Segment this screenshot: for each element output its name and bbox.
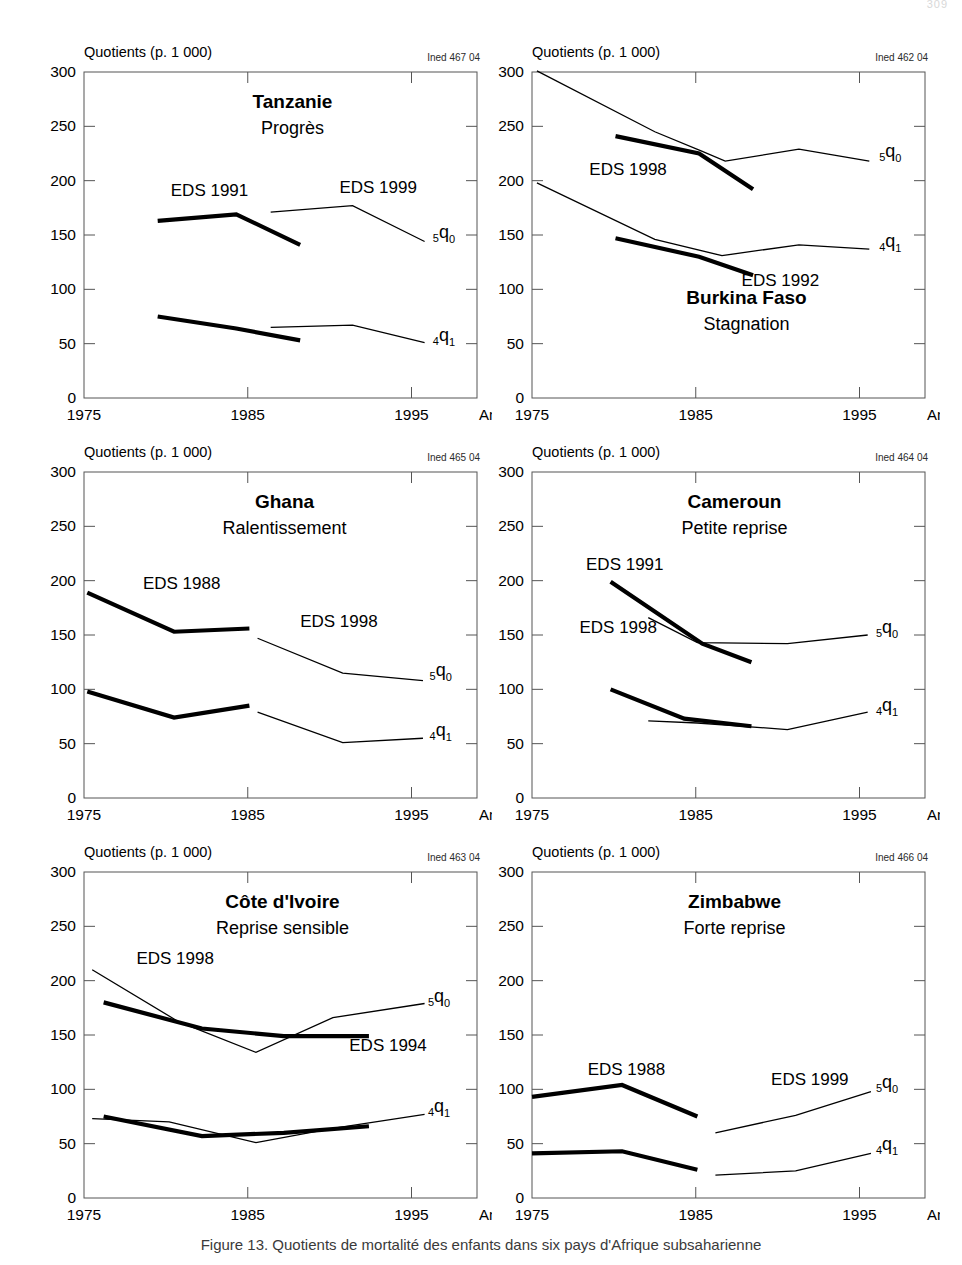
x-tick-label: 1995 — [394, 1206, 428, 1223]
x-axis-title: Année — [927, 1206, 940, 1223]
y-tick-label: 200 — [498, 572, 524, 589]
y-tick-label: 100 — [50, 680, 76, 697]
x-tick-label: 1985 — [679, 806, 713, 823]
data-series-line — [87, 593, 249, 632]
chart-panel-cote-divoire: Quotients (p. 1 000) Ined 463 04 0501001… — [22, 840, 492, 1240]
series-label: 5q0 — [430, 660, 452, 683]
x-tick-label: 1975 — [515, 1206, 549, 1223]
y-tick-label: 150 — [498, 626, 524, 643]
y-tick-label: 150 — [498, 1026, 524, 1043]
series-label: 4q1 — [879, 231, 901, 254]
data-series-line — [537, 183, 869, 256]
chart-title: Ghana — [255, 491, 315, 512]
chart-subtitle: Petite reprise — [681, 518, 787, 538]
y-tick-label: 150 — [50, 626, 76, 643]
series-label: 5q0 — [433, 222, 455, 245]
x-tick-label: 1975 — [67, 406, 101, 423]
eds-annotation: EDS 1999 — [339, 178, 417, 197]
data-series-line — [648, 712, 867, 729]
chart-panel-burkina-faso: Quotients (p. 1 000) Ined 462 04 0501001… — [470, 40, 940, 440]
data-series-line — [532, 1085, 697, 1117]
plot-area: 050100150200250300197519851995AnnéeEDS 1… — [470, 840, 940, 1240]
eds-annotation: EDS 1998 — [579, 618, 657, 637]
data-series-line — [616, 238, 754, 275]
y-tick-label: 100 — [50, 1080, 76, 1097]
y-tick-label: 0 — [67, 789, 76, 806]
y-tick-label: 250 — [50, 517, 76, 534]
series-label: 4q1 — [433, 325, 455, 348]
y-tick-label: 300 — [498, 863, 524, 880]
data-series-line — [158, 317, 300, 341]
plot-area: 050100150200250300197519851995AnnéeEDS 1… — [470, 440, 940, 840]
x-tick-label: 1995 — [842, 406, 876, 423]
y-tick-label: 0 — [515, 789, 524, 806]
y-tick-label: 0 — [515, 1189, 524, 1206]
chart-subtitle: Ralentissement — [222, 518, 346, 538]
data-series-line — [258, 638, 423, 680]
y-tick-label: 50 — [59, 1135, 77, 1152]
x-tick-label: 1995 — [842, 1206, 876, 1223]
series-label: 5q0 — [428, 986, 450, 1009]
y-tick-label: 50 — [507, 335, 525, 352]
chart-panel-cameroun: Quotients (p. 1 000) Ined 464 04 0501001… — [470, 440, 940, 840]
eds-annotation: EDS 1991 — [586, 555, 664, 574]
data-series-line — [92, 1114, 424, 1142]
chart-title: Côte d'Ivoire — [225, 891, 339, 912]
chart-subtitle: Reprise sensible — [216, 918, 349, 938]
eds-annotation: EDS 1988 — [143, 574, 221, 593]
y-tick-label: 50 — [59, 335, 77, 352]
chart-subtitle: Forte reprise — [683, 918, 785, 938]
data-series-line — [158, 214, 300, 244]
figure-caption: Figure 13. Quotients de mortalité des en… — [0, 1236, 962, 1262]
data-series-line — [532, 1151, 697, 1169]
y-tick-label: 250 — [50, 117, 76, 134]
chart-subtitle: Stagnation — [703, 314, 789, 334]
chart-panel-ghana: Quotients (p. 1 000) Ined 465 04 0501001… — [22, 440, 492, 840]
chart-title: Burkina Faso — [686, 287, 806, 308]
x-tick-label: 1985 — [231, 1206, 265, 1223]
y-tick-label: 300 — [498, 63, 524, 80]
y-tick-label: 150 — [50, 226, 76, 243]
y-tick-label: 100 — [498, 1080, 524, 1097]
x-axis-title: Année — [927, 806, 940, 823]
x-tick-label: 1985 — [231, 806, 265, 823]
data-series-line — [611, 689, 752, 726]
y-tick-label: 200 — [50, 572, 76, 589]
y-tick-label: 250 — [498, 517, 524, 534]
plot-area: 050100150200250300197519851995AnnéeEDS 1… — [22, 40, 492, 440]
y-tick-label: 100 — [498, 680, 524, 697]
plot-frame — [532, 72, 925, 398]
eds-annotation: EDS 1988 — [588, 1060, 666, 1079]
y-tick-label: 0 — [67, 1189, 76, 1206]
y-tick-label: 200 — [50, 972, 76, 989]
y-tick-label: 300 — [50, 63, 76, 80]
x-tick-label: 1995 — [394, 406, 428, 423]
plot-area: 050100150200250300197519851995AnnéeEDS 1… — [22, 440, 492, 840]
plot-area: 050100150200250300197519851995AnnéeEDS 1… — [470, 40, 940, 440]
x-tick-label: 1975 — [515, 806, 549, 823]
y-tick-label: 100 — [498, 280, 524, 297]
chart-title: Tanzanie — [253, 91, 333, 112]
eds-annotation: EDS 1999 — [771, 1070, 849, 1089]
chart-panel-tanzanie: Quotients (p. 1 000) Ined 467 04 0501001… — [22, 40, 492, 440]
x-axis-title: Année — [927, 406, 940, 423]
chart-subtitle: Progrès — [261, 118, 324, 138]
x-tick-label: 1975 — [67, 806, 101, 823]
series-label: 4q1 — [428, 1096, 450, 1119]
chart-title: Zimbabwe — [688, 891, 781, 912]
eds-annotation: EDS 1998 — [589, 160, 667, 179]
series-label: 4q1 — [876, 695, 898, 718]
eds-annotation: EDS 1994 — [349, 1036, 427, 1055]
x-tick-label: 1995 — [394, 806, 428, 823]
plot-area: 050100150200250300197519851995AnnéeEDS 1… — [22, 840, 492, 1240]
y-tick-label: 150 — [498, 226, 524, 243]
y-tick-label: 0 — [67, 389, 76, 406]
y-tick-label: 200 — [498, 172, 524, 189]
chart-panel-zimbabwe: Quotients (p. 1 000) Ined 466 04 0501001… — [470, 840, 940, 1240]
data-series-line — [715, 1092, 871, 1133]
data-series-line — [87, 692, 249, 718]
series-label: 4q1 — [876, 1134, 898, 1157]
y-tick-label: 300 — [50, 863, 76, 880]
x-tick-label: 1975 — [515, 406, 549, 423]
y-tick-label: 50 — [59, 735, 77, 752]
